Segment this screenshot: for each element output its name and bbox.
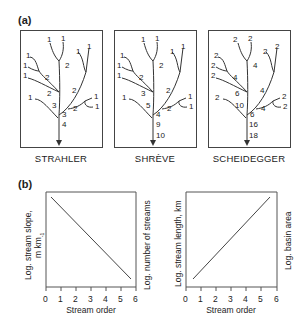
- y-axis-label-right: Log. basin area: [283, 211, 293, 270]
- chart-length: [0, 0, 303, 335]
- x-axis-label: Stream order: [181, 305, 281, 315]
- y-axis-label: Log. stream length, km: [173, 201, 183, 287]
- x-tick: 4: [243, 294, 248, 304]
- x-tick: 6: [274, 294, 279, 304]
- x-tick: 0: [183, 294, 188, 304]
- x-tick: 1: [198, 294, 203, 304]
- x-tick: 3: [228, 294, 233, 304]
- x-tick: 2: [213, 294, 218, 304]
- x-tick: 5: [258, 294, 263, 304]
